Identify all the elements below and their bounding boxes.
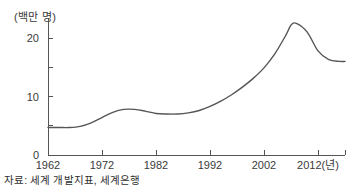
chart-figure: (백만 명) 01020196219721982199220022012(년) … [0,0,361,188]
chart-axes [48,18,345,155]
chart-series [48,23,345,128]
y-tick-label: 20 [27,32,39,44]
x-tick-label: 2012(년) [297,159,339,171]
series-line [48,23,345,128]
source-note: 자료: 세계 개발지표, 세계은행 [4,172,140,187]
x-tick-label: 2002 [252,159,276,171]
x-tick-label: 1972 [90,159,114,171]
x-tick-label: 1962 [36,159,60,171]
x-tick-label: 1992 [198,159,222,171]
line-chart-plot: 01020196219721982199220022012(년) [0,0,361,188]
x-tick-label: 1982 [144,159,168,171]
y-tick-label: 10 [27,91,39,103]
chart-tick-labels: 01020196219721982199220022012(년) [27,32,339,171]
